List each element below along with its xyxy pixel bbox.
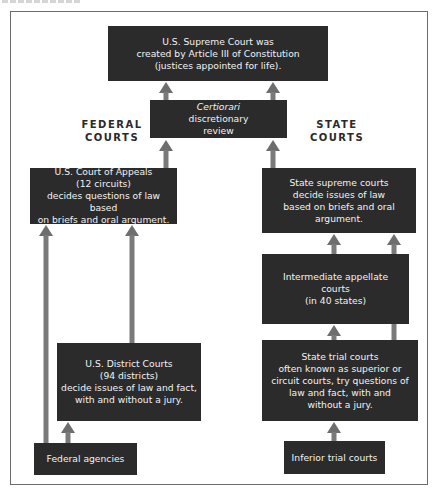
inferior-trial-courts-box: Inferior trial courts — [284, 441, 385, 474]
node-line: often known as superior or — [271, 363, 409, 375]
arrow-up-icon — [60, 422, 76, 443]
node-line: U.S. Supreme Court was — [136, 36, 299, 48]
node-line: law and fact, with and — [271, 387, 409, 399]
state-trial-courts-box: State trial courts often known as superi… — [262, 340, 418, 421]
arrow-up-icon — [124, 225, 140, 343]
federal-agencies-box: Federal agencies — [34, 443, 137, 475]
state-courts-label: STATE COURTS — [302, 118, 372, 144]
arrow-up-icon — [326, 422, 342, 441]
arrow-up-icon — [265, 140, 281, 168]
intermediate-appellate-box: Intermediate appellate courts (in 40 sta… — [262, 254, 409, 324]
label-line: COURTS — [302, 131, 372, 144]
node-line: circuit courts, try questions of — [271, 375, 409, 387]
node-line: with and without a jury. — [61, 394, 197, 406]
supreme-court-box: U.S. Supreme Court was created by Articl… — [108, 26, 328, 81]
node-line: (justices appointed for life). — [136, 60, 299, 72]
node-line: State supreme courts — [283, 177, 395, 189]
court-of-appeals-box: U.S. Court of Appeals (12 circuits) deci… — [30, 168, 177, 224]
node-line: Certiorari — [189, 101, 249, 113]
arrow-up-icon — [158, 82, 174, 100]
state-supreme-courts-box: State supreme courts decide issues of la… — [262, 168, 416, 233]
node-line: (94 districts) — [61, 370, 197, 382]
node-line: review — [189, 125, 249, 137]
node-line: based on briefs and oral — [283, 201, 395, 213]
node-line: (in 40 states) — [283, 295, 388, 307]
node-line: created by Article III of Constitution — [136, 48, 299, 60]
node-line: decide issues of law — [283, 189, 395, 201]
node-line: discretionary — [189, 113, 249, 125]
node-line: U.S. Court of Appeals — [34, 166, 173, 178]
arrow-up-icon — [326, 234, 342, 254]
node-line: Federal agencies — [47, 453, 125, 465]
node-line: decide issues of law and fact, — [61, 382, 197, 394]
arrow-up-icon — [326, 325, 342, 340]
cut-off-figure-caption — [2, 0, 80, 3]
node-line: Inferior trial courts — [292, 452, 378, 464]
node-line: without a jury. — [271, 399, 409, 411]
label-line: COURTS — [72, 131, 152, 144]
certiorari-box: Certiorari discretionary review — [150, 100, 287, 138]
node-line: decides questions of law based — [34, 190, 173, 214]
node-line: (12 circuits) — [34, 178, 173, 190]
node-line: State trial courts — [271, 351, 409, 363]
district-courts-box: U.S. District Courts (94 districts) deci… — [57, 343, 201, 421]
label-line: FEDERAL — [72, 118, 152, 131]
node-line: Intermediate appellate — [283, 271, 388, 283]
federal-courts-label: FEDERAL COURTS — [72, 118, 152, 144]
arrow-up-icon — [38, 225, 54, 443]
arrow-up-icon — [265, 82, 281, 100]
label-line: STATE — [302, 118, 372, 131]
node-line: on briefs and oral argument. — [34, 214, 173, 226]
node-line: argument. — [283, 213, 395, 225]
arrow-up-icon — [158, 140, 174, 168]
node-line: U.S. District Courts — [61, 358, 197, 370]
node-line: courts — [283, 283, 388, 295]
